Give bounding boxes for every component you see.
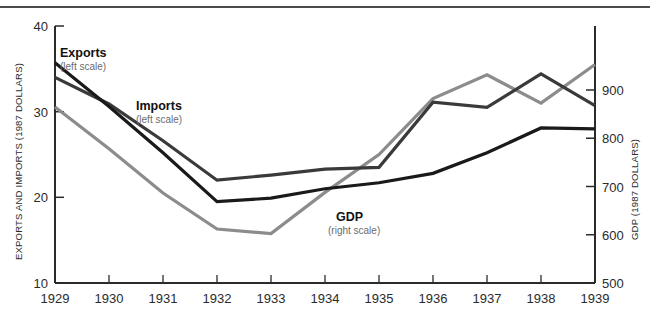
left-tick-label-20: 20 xyxy=(34,190,48,205)
x-tick-label-1939: 1939 xyxy=(581,291,610,306)
x-tick-label-1929: 1929 xyxy=(41,291,70,306)
x-tick-label-1931: 1931 xyxy=(149,291,178,306)
right-tick-label-900: 900 xyxy=(602,83,624,98)
x-tick-label-1935: 1935 xyxy=(365,291,394,306)
series-annotation-exports: Exports xyxy=(60,46,107,60)
series-annotation-imports-sub: (left scale) xyxy=(136,114,182,125)
series-annotation-exports-sub: (left scale) xyxy=(60,61,106,72)
x-axis-tick-labels: 1929193019311932193319341935193619371938… xyxy=(41,291,610,306)
x-axis-ticks xyxy=(55,275,595,283)
x-tick-label-1932: 1932 xyxy=(203,291,232,306)
x-tick-label-1930: 1930 xyxy=(95,291,124,306)
right-tick-label-600: 600 xyxy=(602,228,624,243)
left-axis-title: EXPORTS AND IMPORTS (1987 DOLLARS) xyxy=(13,63,24,260)
series-annotation-gdp-sub: (right scale) xyxy=(328,225,380,236)
x-tick-label-1936: 1936 xyxy=(419,291,448,306)
series-annotation-imports: Imports xyxy=(136,99,182,113)
left-tick-label-40: 40 xyxy=(34,19,48,34)
right-tick-label-700: 700 xyxy=(602,180,624,195)
chart-figure: 40 30 20 10 900 800 700 600 500 19291930… xyxy=(0,0,650,316)
right-tick-label-500: 500 xyxy=(602,276,624,291)
x-tick-label-1937: 1937 xyxy=(473,291,502,306)
right-axis-ticks xyxy=(586,90,595,283)
right-axis-title: GDP (1987 DOLLARS) xyxy=(629,139,640,240)
line-chart-canvas: 40 30 20 10 900 800 700 600 500 19291930… xyxy=(0,0,650,316)
x-tick-label-1938: 1938 xyxy=(527,291,556,306)
series-annotation-gdp: GDP xyxy=(336,210,363,224)
x-tick-label-1934: 1934 xyxy=(311,291,340,306)
series-line-exports xyxy=(55,63,595,202)
x-tick-label-1933: 1933 xyxy=(257,291,286,306)
left-tick-label-30: 30 xyxy=(34,105,48,120)
right-tick-label-800: 800 xyxy=(602,131,624,146)
series-line-imports xyxy=(55,74,595,180)
left-tick-label-10: 10 xyxy=(34,276,48,291)
